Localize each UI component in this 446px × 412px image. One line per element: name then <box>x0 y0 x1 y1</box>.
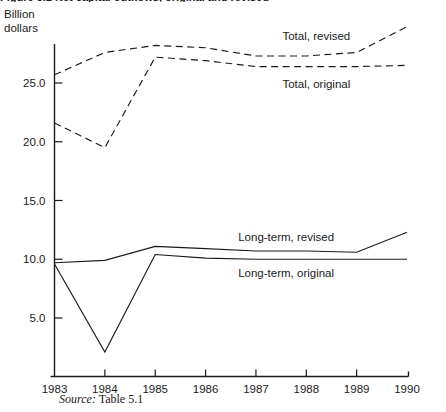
x-axis-ticks <box>105 370 357 377</box>
y-tick-label: 25.0 <box>23 77 45 89</box>
line-chart-plot: 5.010.015.020.025.0 19831984198519861987… <box>0 0 446 412</box>
series-label: Long-term, revised <box>238 231 334 243</box>
x-tick-label: 1988 <box>293 383 319 395</box>
chart-axes <box>51 44 409 377</box>
source-note: Source: Table 5.1 <box>59 392 143 407</box>
y-axis-tick-labels: 5.010.015.020.025.0 <box>23 77 45 324</box>
series-line <box>55 27 408 75</box>
chart-series-labels: Total, revisedTotal, originalLong-term, … <box>238 30 350 279</box>
source-value: Table 5.1 <box>99 392 143 406</box>
x-tick-label: 1986 <box>193 383 219 395</box>
chart-series-lines <box>55 27 408 352</box>
figure-container: Figure 5.1 Net capital outflows, origina… <box>0 0 446 412</box>
y-tick-label: 10.0 <box>23 253 45 265</box>
source-label: Source: <box>59 392 96 406</box>
x-tick-label: 1990 <box>394 383 420 395</box>
y-tick-label: 15.0 <box>23 195 45 207</box>
x-tick-label: 1985 <box>142 383 168 395</box>
y-tick-label: 20.0 <box>23 136 45 148</box>
series-label: Total, revised <box>282 30 350 42</box>
series-line <box>55 57 408 147</box>
x-tick-label: 1989 <box>344 383 370 395</box>
series-line <box>55 255 408 353</box>
x-tick-label: 1987 <box>243 383 269 395</box>
series-label: Total, original <box>282 78 350 90</box>
series-label: Long-term, original <box>238 267 334 279</box>
y-tick-label: 5.0 <box>30 312 46 324</box>
y-axis-ticks <box>55 83 63 318</box>
